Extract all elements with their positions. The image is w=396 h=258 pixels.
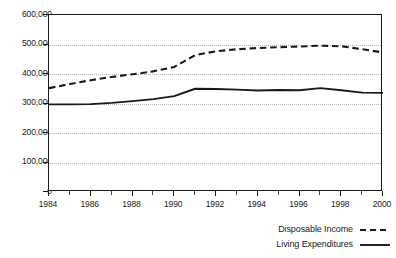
series-line-living-expenditures — [49, 88, 383, 104]
x-axis-tick-mark — [215, 191, 216, 196]
x-axis-tick-mark — [48, 191, 49, 196]
chart-container: 0100,000200,000300,000400,000500,000600,… — [0, 0, 396, 258]
x-axis-tick-label: 1988 — [112, 199, 152, 209]
legend-line-sample-solid — [360, 240, 390, 250]
x-axis-tick-mark — [132, 191, 133, 196]
x-axis-tick-minor — [278, 191, 279, 195]
x-axis-tick-mark — [90, 191, 91, 196]
legend-label: Disposable Income — [278, 224, 353, 235]
x-axis-tick-label: 2000 — [362, 199, 396, 209]
data-series-layer — [49, 15, 383, 192]
x-axis-tick-label: 1986 — [70, 199, 110, 209]
x-axis-tick-label: 1984 — [28, 199, 68, 209]
x-axis-tick-minor — [319, 191, 320, 195]
x-axis-tick-label: 1990 — [153, 199, 193, 209]
chart-legend: Disposable IncomeLiving Expenditures — [200, 222, 390, 252]
legend-item[interactable]: Living Expenditures — [200, 237, 390, 252]
legend-item[interactable]: Disposable Income — [200, 222, 390, 237]
legend-line-sample-dashed — [360, 225, 390, 235]
x-axis-tick-mark — [340, 191, 341, 196]
x-axis-tick-minor — [361, 191, 362, 195]
x-axis-tick-minor — [236, 191, 237, 195]
x-axis-tick-mark — [299, 191, 300, 196]
x-axis-tick-label: 1996 — [279, 199, 319, 209]
x-axis-tick-minor — [194, 191, 195, 195]
x-axis-tick-mark — [173, 191, 174, 196]
x-axis-tick-mark — [257, 191, 258, 196]
x-axis-tick-minor — [152, 191, 153, 195]
legend-label: Living Expenditures — [276, 239, 353, 250]
x-axis-tick-minor — [69, 191, 70, 195]
x-axis-tick-label: 1992 — [195, 199, 235, 209]
plot-area — [48, 14, 382, 191]
x-axis-tick-minor — [111, 191, 112, 195]
series-line-disposable-income — [49, 46, 383, 88]
x-axis-tick-label: 1994 — [237, 199, 277, 209]
x-axis-tick-mark — [382, 191, 383, 196]
x-axis-tick-label: 1998 — [320, 199, 360, 209]
